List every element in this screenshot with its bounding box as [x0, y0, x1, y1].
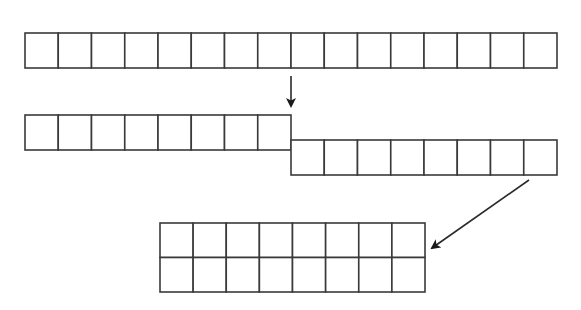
array-cell: [391, 140, 424, 175]
array-cell: [158, 33, 191, 68]
array-cell: [25, 115, 58, 150]
array-cell: [491, 140, 524, 175]
array-cell: [191, 33, 224, 68]
array-cell: [358, 33, 391, 68]
array-cell: [158, 115, 191, 150]
array-cell: [160, 258, 193, 293]
array-cell: [258, 33, 291, 68]
reshape-diagram: [0, 0, 581, 310]
array-cell: [457, 140, 490, 175]
array-cell: [424, 140, 457, 175]
array-cell: [160, 223, 193, 258]
stacked-grid: [160, 223, 425, 292]
array-cell: [58, 33, 91, 68]
array-cell: [392, 258, 425, 293]
array-cell: [391, 33, 424, 68]
array-cell: [226, 223, 259, 258]
array-cell: [291, 140, 324, 175]
array-cell: [424, 33, 457, 68]
array-stages: [25, 33, 557, 292]
array-cell: [92, 115, 125, 150]
array-cell: [125, 33, 158, 68]
split-left-half: [25, 115, 291, 150]
array-cell: [92, 33, 125, 68]
array-cell: [225, 115, 258, 150]
array-cell: [359, 258, 392, 293]
array-cell: [491, 33, 524, 68]
array-cell: [392, 223, 425, 258]
array-cell: [259, 258, 292, 293]
array-cell: [524, 33, 557, 68]
array-cell: [225, 33, 258, 68]
array-cell: [324, 33, 357, 68]
array-cell: [293, 258, 326, 293]
array-cell: [193, 223, 226, 258]
array-cell: [291, 33, 324, 68]
original-row: [25, 33, 557, 68]
array-cell: [457, 33, 490, 68]
array-cell: [359, 223, 392, 258]
array-cell: [324, 140, 357, 175]
array-cell: [293, 223, 326, 258]
array-cell: [25, 33, 58, 68]
array-cell: [58, 115, 91, 150]
split-right-half: [291, 140, 557, 175]
array-cell: [326, 223, 359, 258]
array-cell: [259, 223, 292, 258]
array-cell: [226, 258, 259, 293]
stack-arrow-icon: [432, 180, 529, 248]
array-cell: [258, 115, 291, 150]
array-cell: [326, 258, 359, 293]
array-cell: [193, 258, 226, 293]
array-cell: [191, 115, 224, 150]
array-cell: [125, 115, 158, 150]
array-cell: [358, 140, 391, 175]
array-cell: [524, 140, 557, 175]
